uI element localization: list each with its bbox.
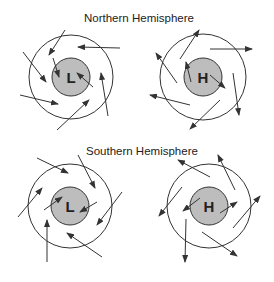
wind-arrow-icon bbox=[178, 160, 210, 177]
high-pressure-label: H bbox=[204, 198, 215, 215]
low-pressure-label: L bbox=[65, 198, 74, 215]
wind-arrow-icon bbox=[190, 100, 220, 129]
high-pressure-label: H bbox=[198, 69, 209, 86]
wind-arrow-icon bbox=[101, 73, 108, 116]
northern-high-pressure-system: H bbox=[150, 30, 252, 129]
wind-arrow-icon bbox=[156, 53, 177, 83]
wind-arrow-icon bbox=[67, 233, 102, 257]
wind-arrow-icon bbox=[233, 73, 239, 115]
wind-arrow-icon bbox=[159, 187, 182, 216]
wind-arrow-icon bbox=[185, 219, 186, 262]
wind-arrow-icon bbox=[233, 196, 260, 228]
wind-arrow-icon bbox=[180, 30, 199, 59]
wind-arrow-icon bbox=[37, 158, 68, 173]
pressure-systems-diagram: Northern Hemisphere Southern Hemisphere … bbox=[0, 0, 274, 282]
wind-arrow-icon bbox=[78, 155, 95, 188]
wind-arrow-icon bbox=[150, 95, 190, 105]
wind-circulation-svg: LHLH bbox=[0, 0, 274, 282]
low-pressure-label: L bbox=[66, 69, 75, 86]
southern-high-pressure-system: H bbox=[159, 155, 260, 262]
wind-arrow-icon bbox=[202, 232, 237, 256]
wind-arrow-icon bbox=[20, 95, 58, 104]
wind-arrow-icon bbox=[49, 30, 65, 55]
northern-low-pressure-system: L bbox=[20, 30, 120, 130]
wind-arrow-icon bbox=[218, 155, 235, 190]
wind-arrow-icon bbox=[78, 47, 120, 48]
wind-arrow-icon bbox=[57, 100, 89, 130]
southern-low-pressure-system: L bbox=[18, 155, 122, 262]
